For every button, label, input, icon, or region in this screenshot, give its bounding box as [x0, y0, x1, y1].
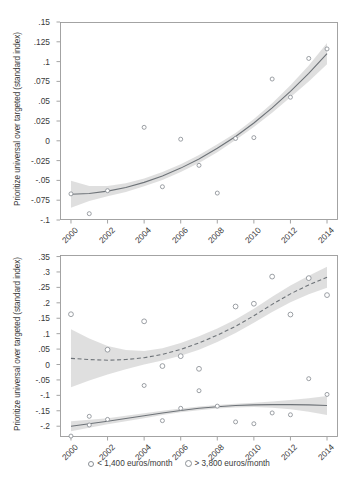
data-point	[179, 406, 183, 410]
y-tick-label: .05	[0, 344, 56, 354]
y-tick-label: 0	[0, 136, 56, 146]
data-point	[69, 312, 74, 317]
data-point	[306, 276, 311, 281]
fit-line-solid	[71, 54, 327, 195]
data-point	[252, 136, 256, 140]
data-point	[69, 192, 73, 196]
data-point	[106, 417, 110, 421]
data-point	[270, 274, 275, 279]
data-point	[142, 319, 147, 324]
legend-item: > 3,800 euros/month	[185, 459, 270, 468]
y-tick-label: -.05	[0, 175, 56, 185]
y-tick-label: -.075	[0, 195, 56, 205]
data-point	[325, 47, 329, 51]
data-point	[270, 77, 274, 81]
data-point	[160, 185, 164, 189]
y-tick-label: -.2	[0, 421, 56, 431]
data-point	[233, 304, 238, 309]
data-point	[160, 364, 165, 369]
legend-label: < 1,400 euros/month	[97, 459, 172, 468]
y-tick-label: 0	[0, 360, 56, 370]
y-tick-label: -.025	[0, 156, 56, 166]
y-tick-label: -.05	[0, 375, 56, 385]
y-tick-label: .125	[0, 37, 56, 47]
chart-panel-bottom: Prioritize universal over targeted (stan…	[0, 240, 358, 455]
data-point	[87, 414, 91, 418]
circle-marker-icon	[185, 460, 192, 467]
data-point	[307, 377, 311, 381]
y-tick-label: -.15	[0, 406, 56, 416]
y-tick-label: .1	[0, 57, 56, 67]
data-point	[234, 420, 238, 424]
data-point	[215, 404, 219, 408]
data-point	[197, 163, 201, 167]
data-point	[325, 392, 329, 396]
data-point	[178, 354, 183, 359]
data-point	[160, 419, 164, 423]
y-tick-label: .025	[0, 116, 56, 126]
data-point	[288, 95, 292, 99]
data-point	[69, 434, 73, 438]
y-tick-label: -.1	[0, 390, 56, 400]
y-tick-label: .15	[0, 17, 56, 27]
data-point	[325, 293, 330, 298]
data-point	[234, 136, 238, 140]
y-tick-label: .3	[0, 267, 56, 277]
data-point	[270, 411, 274, 415]
data-point	[142, 383, 146, 387]
data-point	[197, 389, 201, 393]
data-point	[87, 423, 91, 427]
data-point	[252, 422, 256, 426]
data-point	[179, 137, 183, 141]
chart-panel-top: Prioritize universal over targeted (stan…	[0, 0, 358, 245]
y-tick-label: .05	[0, 96, 56, 106]
data-point	[251, 301, 256, 306]
small-circle-marker-icon	[88, 461, 94, 467]
legend-label: > 3,800 euros/month	[195, 459, 270, 468]
data-point	[105, 347, 110, 352]
y-tick-label: .35	[0, 252, 56, 262]
data-point	[87, 212, 91, 216]
data-point	[142, 125, 146, 129]
chart-legend: < 1,400 euros/month> 3,800 euros/month	[0, 459, 358, 468]
data-point	[197, 366, 202, 371]
y-tick-label: .25	[0, 282, 56, 292]
data-point	[106, 189, 110, 193]
data-point	[288, 413, 292, 417]
legend-item: < 1,400 euros/month	[88, 459, 172, 468]
data-point	[288, 312, 293, 317]
confidence-band-0	[71, 43, 327, 208]
data-point	[215, 191, 219, 195]
y-tick-label: -.1	[0, 215, 56, 225]
data-point	[307, 56, 311, 60]
y-tick-label: .2	[0, 298, 56, 308]
y-tick-label: .1	[0, 329, 56, 339]
y-tick-label: .075	[0, 76, 56, 86]
y-tick-label: .15	[0, 313, 56, 323]
